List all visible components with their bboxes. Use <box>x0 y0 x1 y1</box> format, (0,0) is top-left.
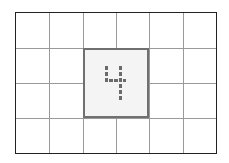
grid-line-horizontal <box>16 118 216 119</box>
game-board <box>15 12 217 154</box>
highlighted-tile[interactable] <box>83 48 149 118</box>
